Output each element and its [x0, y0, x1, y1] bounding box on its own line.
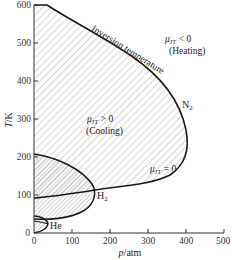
y-tick-0: 0 [25, 228, 30, 238]
y-tick-200: 200 [17, 152, 32, 162]
cooling-mu-label: μJT > 0 [86, 114, 113, 125]
heating-mu-label: μJT < 0 [164, 34, 191, 45]
x-tick-500: 500 [216, 236, 231, 246]
he-label: He [50, 220, 62, 231]
heating-label: (Heating) [169, 46, 205, 57]
cooling-label: (Cooling) [86, 126, 123, 137]
h2-label: H2 [97, 190, 108, 203]
y-tick-500: 500 [17, 38, 32, 48]
y-tick-100: 100 [17, 190, 32, 200]
x-tick-400: 400 [179, 236, 194, 246]
x-axis-title: p/atm [118, 247, 142, 258]
x-tick-200: 200 [103, 236, 118, 246]
x-tick-100: 100 [65, 236, 80, 246]
x-ticks [72, 229, 224, 233]
x-tick-300: 300 [141, 236, 156, 246]
x-tick-0: 0 [32, 236, 37, 246]
y-tick-300: 300 [17, 114, 32, 124]
inversion-temperature-chart: 600 500 400 300 200 100 0 0 100 200 300 … [0, 0, 232, 260]
mu-zero-label: μJT = 0 [149, 164, 176, 175]
y-axis-title: T/K [3, 111, 14, 127]
y-tick-400: 400 [17, 76, 32, 86]
n2-label: N2 [182, 99, 193, 112]
y-tick-600: 600 [17, 0, 32, 10]
